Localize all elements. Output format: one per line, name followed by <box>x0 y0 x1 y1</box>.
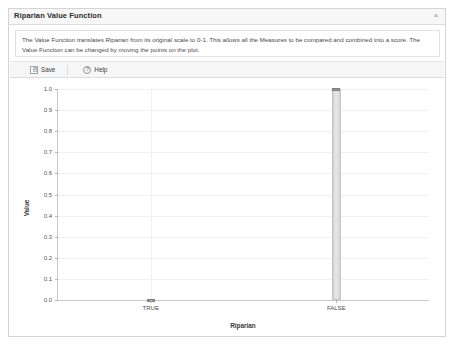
x-tick-mark <box>151 300 152 303</box>
y-tick-mark <box>55 258 58 259</box>
x-tick-label: FALSE <box>327 305 346 311</box>
y-tick-label: 0.5 <box>30 191 52 197</box>
value-function-panel: Riparian Value Function × The Value Func… <box>8 8 446 337</box>
value-point-handle[interactable] <box>332 88 340 92</box>
y-gridline <box>58 110 429 111</box>
help-button-label: Help <box>94 66 107 73</box>
x-tick-mark <box>336 300 337 303</box>
y-tick-mark <box>55 300 58 301</box>
y-tick-mark <box>55 279 58 280</box>
close-icon[interactable]: × <box>431 11 441 21</box>
y-gridline <box>58 279 429 280</box>
help-circle-icon <box>83 66 91 74</box>
y-tick-label: 1.0 <box>30 86 52 92</box>
value-bar[interactable] <box>332 89 341 300</box>
floppy-disk-icon <box>30 66 38 74</box>
page-title: Riparian Value Function <box>14 11 102 20</box>
y-tick-mark <box>55 110 58 111</box>
y-gridline <box>58 258 429 259</box>
y-axis-title: Value <box>23 199 30 216</box>
toolbar: Save Help <box>10 61 444 78</box>
y-tick-mark <box>55 131 58 132</box>
y-tick-mark <box>55 89 58 90</box>
y-tick-label: 0.9 <box>30 107 52 113</box>
panel-header: Riparian Value Function × <box>9 9 445 25</box>
y-tick-label: 0.4 <box>30 212 52 218</box>
y-tick-mark <box>55 237 58 238</box>
description-text: The Value Function translates Riparian f… <box>22 35 433 54</box>
y-tick-mark <box>55 152 58 153</box>
save-button-label: Save <box>41 66 55 73</box>
help-button[interactable]: Help <box>77 64 113 76</box>
y-tick-label: 0.2 <box>30 254 52 260</box>
x-tick-label: TRUE <box>143 305 159 311</box>
y-tick-label: 0.8 <box>30 128 52 134</box>
description-box: The Value Function translates Riparian f… <box>15 30 440 57</box>
y-gridline <box>58 173 429 174</box>
y-gridline <box>58 152 429 153</box>
y-tick-label: 0.6 <box>30 170 52 176</box>
y-gridline <box>58 131 429 132</box>
y-tick-label: 0.0 <box>30 297 52 303</box>
y-tick-label: 0.3 <box>30 233 52 239</box>
y-tick-mark <box>55 216 58 217</box>
y-gridline <box>58 89 429 90</box>
y-gridline <box>58 216 429 217</box>
y-tick-label: 0.1 <box>30 275 52 281</box>
x-axis-title: Riparian <box>57 322 429 329</box>
y-tick-mark <box>55 173 58 174</box>
y-tick-mark <box>55 195 58 196</box>
toolbar-separator <box>67 65 68 75</box>
save-button[interactable]: Save <box>24 64 61 76</box>
y-tick-label: 0.7 <box>30 149 52 155</box>
screenshot-root: Riparian Value Function × The Value Func… <box>0 0 454 353</box>
x-gridline <box>151 89 152 300</box>
plot-area[interactable]: 0.00.10.20.30.40.50.60.70.80.91.0TRUEFAL… <box>57 89 429 301</box>
value-function-chart: Value 0.00.10.20.30.40.50.60.70.80.91.0T… <box>10 79 444 336</box>
y-gridline <box>58 195 429 196</box>
y-gridline <box>58 237 429 238</box>
